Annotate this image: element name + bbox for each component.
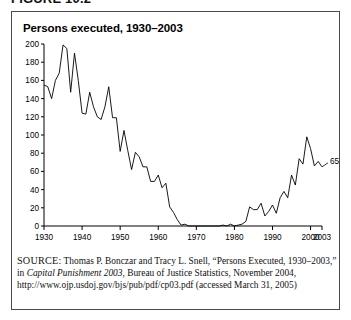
data-line-persons-executed xyxy=(44,45,322,226)
x-tick-label: 1950 xyxy=(111,233,130,242)
annotation-label: 65 xyxy=(330,157,339,166)
executions-line-chart: 0204060801001201401601802001930194019501… xyxy=(12,36,339,250)
x-tick-label: 1940 xyxy=(73,233,92,242)
x-tick-label: 1960 xyxy=(149,233,168,242)
figure-box: Persons executed, 1930–2003 020406080100… xyxy=(11,11,340,310)
x-tick-label: 1980 xyxy=(225,233,244,242)
x-tick-label: 1930 xyxy=(35,233,54,242)
y-tick-label: 140 xyxy=(25,95,39,104)
y-tick-label: 180 xyxy=(25,58,39,67)
y-tick-label: 0 xyxy=(34,222,39,231)
annotation-leader xyxy=(322,163,328,167)
y-tick-label: 120 xyxy=(25,113,39,122)
chart-plot-area: 0204060801001201401601802001930194019501… xyxy=(12,36,339,250)
y-tick-label: 100 xyxy=(25,131,39,140)
source-note: SOURCE: Thomas P. Bonczar and Tracy L. S… xyxy=(17,255,337,291)
y-tick-label: 60 xyxy=(30,167,40,176)
figure-label: FIGURE 10.2 xyxy=(11,0,91,6)
source-publication-title: Capital Punishment 2003 xyxy=(27,268,123,278)
y-tick-label: 80 xyxy=(30,149,40,158)
source-kicker: SOURCE: xyxy=(17,255,61,266)
y-tick-label: 160 xyxy=(25,76,39,85)
x-tick-label: 1990 xyxy=(263,233,282,242)
y-tick-label: 20 xyxy=(30,204,40,213)
x-tick-label: 2003 xyxy=(313,233,332,242)
y-tick-label: 40 xyxy=(30,186,40,195)
x-tick-label: 1970 xyxy=(187,233,206,242)
y-tick-label: 200 xyxy=(25,40,39,49)
chart-title: Persons executed, 1930–2003 xyxy=(23,22,183,34)
